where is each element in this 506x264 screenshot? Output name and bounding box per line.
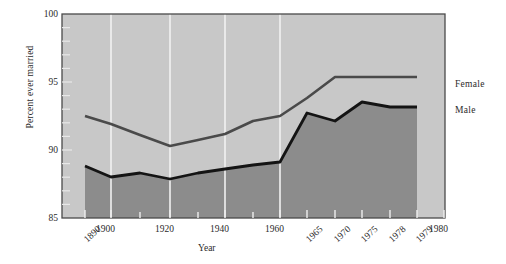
legend-label-male: Male [455,105,476,115]
x-tick-label-1900: 1900 [96,224,115,234]
chart-figure: Percent ever married 100 95 90 85 [0,0,506,264]
x-tick-label-1960: 1960 [265,224,284,234]
x-tick-label-1940: 1940 [210,224,229,234]
legend-label-female: Female [455,79,485,89]
x-tick-label-1980: 1980 [429,224,448,234]
x-axis-title: Year [198,243,216,253]
x-tick-label-1920: 1920 [155,224,174,234]
